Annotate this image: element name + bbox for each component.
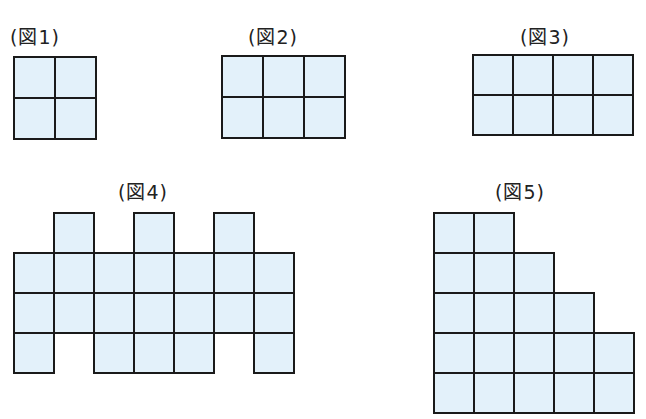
unit-square [13,97,56,140]
unit-square [553,292,595,334]
unit-square [472,94,514,136]
unit-square [213,212,255,254]
unit-square [54,56,97,99]
unit-square [13,56,56,99]
figure-2-grid [222,56,345,138]
unit-square [93,292,135,334]
unit-square [553,372,595,414]
unit-square [53,212,95,254]
unit-square [593,332,635,374]
unit-square [472,54,514,96]
unit-square [53,252,95,294]
unit-square [513,332,555,374]
unit-square [473,372,515,414]
unit-square [592,94,634,136]
unit-square [433,292,475,334]
unit-square [173,332,215,374]
unit-square [13,252,55,294]
unit-square [13,332,55,374]
unit-square [513,252,555,294]
unit-square [593,372,635,414]
unit-square [221,55,264,98]
unit-square [213,252,255,294]
unit-square [262,96,305,139]
unit-square [303,55,346,98]
unit-square [133,252,175,294]
figure-3-label: (図3) [520,22,570,49]
unit-square [253,332,295,374]
unit-square [93,252,135,294]
figure-2-label: (図2) [248,22,298,49]
unit-square [54,97,97,140]
unit-square [93,332,135,374]
figure-1-label: (図1) [10,22,60,49]
figure-3-grid [473,55,633,135]
unit-square [433,212,475,254]
unit-square [53,292,95,334]
unit-square [473,212,515,254]
unit-square [173,252,215,294]
figure-4-grid [14,213,294,373]
figure-5-grid [434,213,634,413]
unit-square [552,94,594,136]
unit-square [592,54,634,96]
unit-square [173,292,215,334]
figure-5-label: (図5) [495,177,545,204]
unit-square [133,212,175,254]
unit-square [213,292,255,334]
unit-square [303,96,346,139]
unit-square [473,332,515,374]
unit-square [473,292,515,334]
unit-square [433,372,475,414]
unit-square [512,54,554,96]
unit-square [552,54,594,96]
unit-square [253,252,295,294]
unit-square [262,55,305,98]
unit-square [553,332,595,374]
unit-square [512,94,554,136]
unit-square [473,252,515,294]
unit-square [221,96,264,139]
unit-square [433,332,475,374]
unit-square [133,292,175,334]
unit-square [513,372,555,414]
unit-square [433,252,475,294]
figure-4-label: (図4) [118,177,168,204]
unit-square [13,292,55,334]
figure-1-grid [14,57,96,139]
unit-square [253,292,295,334]
unit-square [513,292,555,334]
unit-square [133,332,175,374]
